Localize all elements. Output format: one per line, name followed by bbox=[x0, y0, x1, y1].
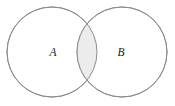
venn-diagram-canvas: A B bbox=[0, 0, 175, 106]
venn-diagram-figure: A B bbox=[0, 0, 175, 106]
set-a-label: A bbox=[48, 46, 57, 58]
set-b-label: B bbox=[117, 46, 124, 58]
